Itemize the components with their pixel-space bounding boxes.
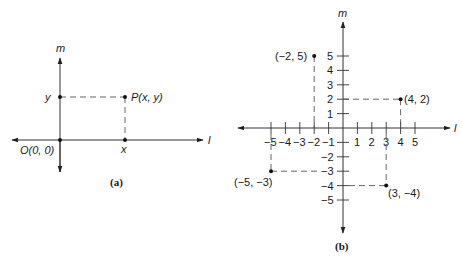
l-label-b: l (454, 122, 457, 134)
point-m5-m3 (269, 169, 273, 173)
svg-text:−3: −3 (321, 165, 334, 177)
y-dot (58, 95, 62, 99)
svg-text:5: 5 (412, 136, 418, 148)
label-4-2: (4, 2) (404, 93, 430, 105)
svg-text:1: 1 (354, 136, 360, 148)
label-m5-m3: (−5, −3) (234, 176, 273, 188)
point-p (123, 95, 127, 99)
svg-text:−4: −4 (279, 136, 292, 148)
coordinate-diagrams: m l y P(x, y) x O(0, 0) (a) (0, 0, 462, 256)
l-label-a: l (208, 134, 211, 146)
svg-text:4: 4 (327, 64, 333, 76)
svg-text:−2: −2 (321, 151, 334, 163)
svg-text:4: 4 (398, 136, 404, 148)
origin-dot (58, 138, 62, 142)
m-label-a: m (56, 42, 65, 54)
y-label-a: y (44, 91, 52, 103)
caption-b: (b) (335, 240, 349, 253)
svg-text:1: 1 (327, 108, 333, 120)
x-label-a: x (120, 143, 127, 155)
m-label-b: m (338, 7, 347, 19)
label-m2-5: (−2, 5) (275, 50, 307, 62)
origin-label: O(0, 0) (20, 144, 55, 156)
x-dot (123, 138, 127, 142)
figure-a: m l y P(x, y) x O(0, 0) (a) (12, 42, 211, 189)
svg-text:3: 3 (327, 79, 333, 91)
svg-text:−4: −4 (321, 180, 334, 192)
point-4-2 (399, 97, 403, 101)
figure-b: −5 −4 −3 −2 −1 1 2 3 4 5 5 4 3 2 1 −2 −3… (234, 7, 457, 253)
svg-text:2: 2 (327, 93, 333, 105)
svg-text:5: 5 (327, 50, 333, 62)
point-m2-5 (312, 54, 316, 58)
svg-text:−2: −2 (308, 136, 321, 148)
point-p-label: P(x, y) (131, 91, 163, 103)
svg-text:−3: −3 (293, 136, 306, 148)
label-3-m4: (3, −4) (388, 187, 420, 199)
svg-text:−5: −5 (264, 136, 277, 148)
svg-text:−1: −1 (322, 136, 335, 148)
svg-text:−5: −5 (321, 194, 334, 206)
svg-text:2: 2 (369, 136, 375, 148)
caption-a: (a) (110, 176, 123, 189)
